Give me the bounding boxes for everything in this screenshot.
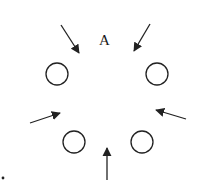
arrow-mid-right-icon (156, 110, 186, 119)
label-a: A (99, 32, 110, 48)
diagram-canvas: A (0, 0, 204, 190)
arrow-top-left-icon (61, 25, 79, 53)
circle-upper-left-icon (46, 63, 68, 85)
arrow-mid-left-icon (30, 113, 60, 123)
circle-lower-left-icon (63, 131, 85, 153)
dot-marker (2, 177, 5, 180)
circles-group (46, 63, 168, 153)
circle-lower-right-icon (131, 131, 153, 153)
arrow-top-right-icon (134, 24, 150, 51)
circle-upper-right-icon (146, 63, 168, 85)
